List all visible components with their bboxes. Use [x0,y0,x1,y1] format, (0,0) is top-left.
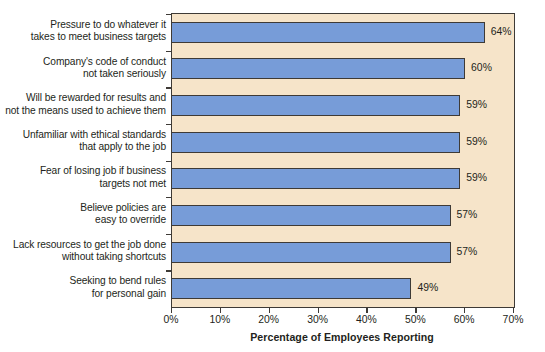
bar [171,95,460,116]
bar-value-label: 57% [457,209,478,220]
bar-value-label: 64% [491,26,512,37]
y-axis-tick [166,234,172,235]
x-axis-tick-mark [464,308,465,313]
category-label: Seeking to bend rules for personal gain [0,275,166,300]
bar-value-label: 60% [471,62,492,73]
y-axis-tick [166,161,172,162]
bar-value-label: 59% [466,136,487,147]
bar [171,58,465,79]
bar [171,278,411,299]
y-axis-tick [166,124,172,125]
bar [171,132,460,153]
x-axis-title: Percentage of Employees Reporting [171,331,513,343]
bar [171,205,451,226]
y-axis-tick [166,14,172,15]
x-axis-tick-mark [513,308,514,313]
x-axis-ticks: 0% 10% 20% 30% 40% 50% 60% 70% [171,308,513,330]
x-axis-tick-label: 20% [258,314,279,325]
x-axis-tick-mark [171,308,172,313]
x-axis-tick-label: 50% [405,314,426,325]
y-axis-tick [166,87,172,88]
x-axis-tick-mark [318,308,319,313]
category-label: Company's code of conduct not taken seri… [0,56,166,81]
x-axis-tick-mark [220,308,221,313]
bar-value-label: 49% [417,282,438,293]
category-label: Pressure to do whatever it takes to meet… [0,19,166,44]
x-axis-tick-label: 10% [209,314,230,325]
plot-area: 64% 60% 59% 59% 59% 57% 57% 49% [171,13,515,308]
category-label: Lack resources to get the job done witho… [0,239,166,264]
y-axis-tick [166,270,172,271]
bar [171,242,451,263]
x-axis-tick-mark [366,308,367,313]
x-axis-tick-label: 70% [503,314,524,325]
category-axis-labels: Pressure to do whatever it takes to meet… [0,13,166,306]
bar [171,22,485,43]
x-axis-tick-label: 30% [307,314,328,325]
category-label: Unfamiliar with ethical standards that a… [0,129,166,154]
bar-value-label: 57% [457,246,478,257]
x-axis-tick-label: 0% [163,314,178,325]
category-label: Will be rewarded for results and not the… [0,92,166,117]
y-axis-tick [166,197,172,198]
x-axis-tick-mark [415,308,416,313]
bar-value-label: 59% [466,99,487,110]
bar-chart: Pressure to do whatever it takes to meet… [0,0,545,352]
x-axis-tick-label: 60% [454,314,475,325]
bar-value-label: 59% [466,172,487,183]
category-label: Believe policies are easy to override [0,202,166,227]
bar [171,168,460,189]
y-axis-tick [166,51,172,52]
category-label: Fear of losing job if business targets n… [0,165,166,190]
x-axis-tick-label: 40% [356,314,377,325]
x-axis-tick-mark [269,308,270,313]
